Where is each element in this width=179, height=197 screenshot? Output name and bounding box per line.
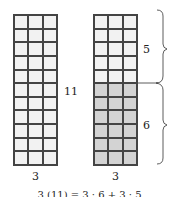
lower-brace-icon [156,83,167,164]
equation-caption: 3 (11) = 3 · 6 + 3 · 5 [0,190,179,197]
upper-brace-icon [156,10,167,83]
brace-annotations [0,0,179,197]
